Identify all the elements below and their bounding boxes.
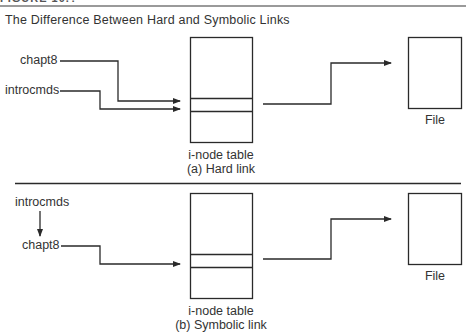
link-name-chapt8-b: chapt8 xyxy=(22,238,60,252)
caption-hard-link: (a) Hard link xyxy=(176,162,266,176)
link-name-introcmds-b: introcmds xyxy=(15,195,69,209)
file-label-a: File xyxy=(405,113,465,127)
inode-table-label-b: i-node table xyxy=(166,304,276,318)
file-label-b: File xyxy=(405,269,465,283)
panel-hard-link xyxy=(60,38,462,143)
file-box-a xyxy=(409,38,462,109)
inode-table-b xyxy=(191,194,253,299)
inode-table-a xyxy=(191,38,253,143)
panel-symbolic-link xyxy=(40,194,462,299)
inode-to-file-arrow-a xyxy=(263,63,391,104)
chapt8-hard-link-arrow xyxy=(60,61,180,101)
chapt8-symlink-arrow xyxy=(61,246,180,264)
link-name-chapt8-a: chapt8 xyxy=(20,53,58,67)
caption-symbolic-link: (b) Symbolic link xyxy=(166,318,276,332)
link-name-introcmds-a: introcmds xyxy=(5,83,59,97)
file-box-b xyxy=(409,194,462,265)
inode-to-file-arrow-b xyxy=(263,219,391,259)
introcmds-hard-link-arrow xyxy=(60,91,180,109)
inode-table-label-a: i-node table xyxy=(176,148,266,162)
